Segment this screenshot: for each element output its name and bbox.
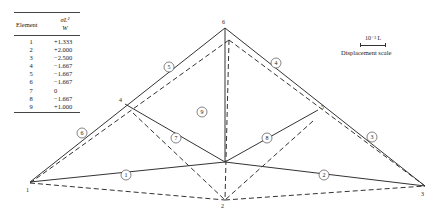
truss-diagram: 6 4 5 1 2 3 5 4 3 6 7 9 8 1 2 [0,0,437,209]
member-label-7: 7 [175,135,178,141]
member-label-4: 4 [275,60,278,66]
member-label-9: 9 [201,109,204,115]
member-label-2: 2 [323,172,326,178]
member-label-6: 6 [81,130,84,136]
node-5: 5 [321,104,324,110]
member-top-right [225,28,425,186]
node-6: 6 [222,19,225,25]
member-label-8: 8 [266,135,269,141]
member-label-3: 3 [371,134,374,140]
member-label-5: 5 [168,64,171,70]
node-2: 2 [221,203,224,209]
node-1: 1 [26,187,29,193]
node-3: 3 [421,191,424,197]
member-labels [77,58,377,180]
node-4: 4 [119,97,122,103]
member-label-1: 1 [125,172,128,178]
